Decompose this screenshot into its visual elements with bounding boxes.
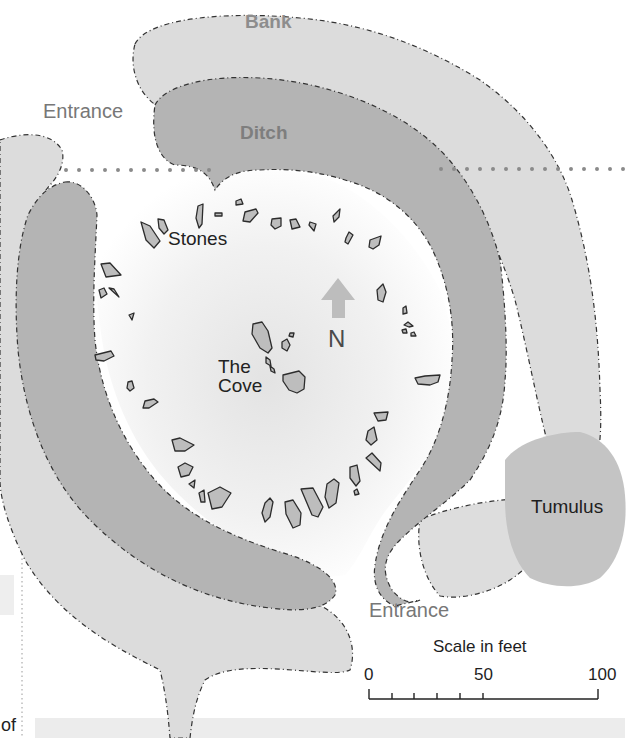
scale-tick-0: 0 [364,665,373,685]
label-cove-line1: The [218,357,278,376]
label-north: N [328,327,345,351]
label-entrance-south: Entrance [369,600,449,620]
label-tumulus: Tumulus [531,497,603,516]
scale-tick-50: 50 [474,665,493,685]
label-the-cove: The Cove [218,357,278,395]
scale-title: Scale in feet [433,638,527,655]
scale-bar [369,689,598,699]
cropped-text-fragment: of [1,716,16,734]
left-sidebar-swatch [0,575,14,615]
label-stones: Stones [168,229,227,248]
label-entrance-north: Entrance [43,101,123,121]
label-cove-line2: Cove [218,376,278,395]
label-bank: Bank [245,12,291,31]
footer-band [35,718,625,738]
scale-tick-100: 100 [588,665,616,685]
label-ditch: Ditch [240,123,288,142]
